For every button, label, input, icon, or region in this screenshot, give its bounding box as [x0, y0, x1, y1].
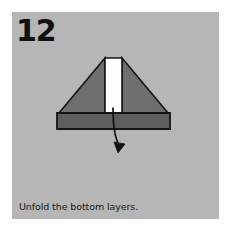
- unfold-arrow-head: [114, 142, 125, 153]
- origami-diagram: [12, 12, 219, 219]
- page-root: 12 Unfold the bottom layers.: [0, 0, 231, 231]
- white-center-strip-shape: [105, 58, 122, 113]
- caption-text: Unfold the bottom layers.: [19, 201, 138, 212]
- upper-triangle-right-shape: [122, 58, 168, 113]
- upper-triangle-left-shape: [59, 58, 105, 113]
